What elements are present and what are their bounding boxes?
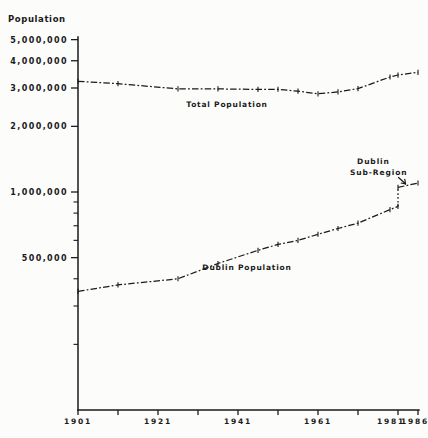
y-tick-label: 1,000,000 — [10, 188, 68, 197]
x-tick-label: 1941 — [224, 417, 252, 426]
y-tick-label: 3,000,000 — [10, 84, 68, 93]
dublin-population-label: Dublin Population — [202, 263, 291, 272]
series-dublin-population — [78, 204, 398, 294]
axes — [78, 37, 419, 410]
series-dublin-population-line — [78, 206, 398, 291]
y-tick-label: 4,000,000 — [10, 57, 68, 66]
callout-arrow-head — [405, 179, 406, 183]
population-chart-figure: Population 5,000,0004,000,0003,000,0002,… — [0, 0, 428, 438]
sub-region-callout-line2: Sub-Region — [350, 168, 408, 177]
chart-canvas: 5,000,0004,000,0003,000,0002,000,0001,00… — [0, 0, 428, 438]
total-population-label: Total Population — [186, 100, 268, 109]
series-dublin-sub-region — [398, 180, 418, 190]
x-tick-label: 1986 — [401, 417, 428, 426]
y-tick-label: 500,000 — [22, 254, 68, 263]
y-tick-label: 5,000,000 — [10, 36, 68, 45]
callout-arrow — [399, 178, 406, 184]
series-total-population — [78, 70, 418, 97]
sub-region-callout-line1: Dublin — [357, 157, 390, 166]
y-axis-title: Population — [8, 14, 66, 24]
x-tick-label: 1901 — [64, 417, 92, 426]
y-tick-label: 2,000,000 — [10, 122, 68, 131]
x-tick-label: 1961 — [304, 417, 332, 426]
y-major-ticks — [71, 40, 78, 258]
series-total-population-line — [78, 72, 418, 94]
x-tick-label: 1921 — [144, 417, 172, 426]
series-dublin-sub-region-line — [398, 183, 418, 187]
